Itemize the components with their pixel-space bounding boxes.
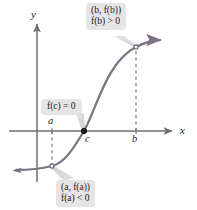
callout-upper-right-line1: (b, f(b)) xyxy=(91,5,121,16)
figure-container: y x a c b (b, f(b)) f(b) > 0 f(c) = 0 (a… xyxy=(0,0,197,210)
callout-middle-left-line1: f(c) = 0 xyxy=(47,101,76,112)
callout-lower-line1: (a, f(a)) xyxy=(61,182,90,193)
y-axis-label: y xyxy=(31,8,36,20)
callout-middle-left: f(c) = 0 xyxy=(41,99,82,115)
point-marker-a xyxy=(50,164,54,168)
leader-upper-right xyxy=(114,36,137,47)
callout-upper-right-line2: f(b) > 0 xyxy=(91,16,121,27)
callout-upper-right: (b, f(b)) f(b) > 0 xyxy=(86,3,126,30)
plot-canvas xyxy=(0,0,197,210)
tick-label-b: b xyxy=(132,133,137,144)
callout-lower: (a, f(a)) f(a) < 0 xyxy=(56,180,95,207)
leader-middle-left xyxy=(76,113,85,130)
leader-lower xyxy=(52,166,74,181)
point-marker-b xyxy=(134,45,138,49)
tick-label-c: c xyxy=(85,133,90,144)
tick-label-a: a xyxy=(48,115,53,126)
callout-lower-line2: f(a) < 0 xyxy=(61,193,90,204)
x-axis-label: x xyxy=(180,124,185,136)
